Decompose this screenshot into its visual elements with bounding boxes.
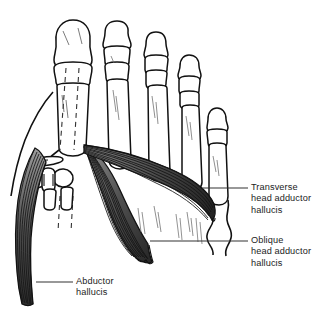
label-oblique-line-2: head adductor <box>251 246 311 257</box>
label-transverse-line-2: head adductor <box>251 193 311 204</box>
foot-anatomy-illustration <box>0 0 330 318</box>
label-abductor-line-1: Abductor <box>76 276 114 287</box>
label-abductor-line-2: hallucis <box>76 287 114 298</box>
label-oblique-line-3: hallucis <box>251 258 311 269</box>
anatomy-figure: Transverse head adductor hallucis Obliqu… <box>0 0 330 318</box>
hallux-bones <box>54 20 92 156</box>
label-transverse-line-3: hallucis <box>251 205 311 216</box>
label-oblique-head-adductor-hallucis: Oblique head adductor hallucis <box>251 235 311 269</box>
label-transverse-line-1: Transverse <box>251 182 311 193</box>
lateral-phalanx-base <box>61 187 73 210</box>
label-transverse-head-adductor-hallucis: Transverse head adductor hallucis <box>251 182 311 216</box>
medial-phalanx-base <box>44 189 56 210</box>
label-abductor-hallucis: Abductor hallucis <box>76 276 114 299</box>
label-oblique-line-1: Oblique <box>251 235 311 246</box>
fifth-toe-bones <box>207 108 228 205</box>
